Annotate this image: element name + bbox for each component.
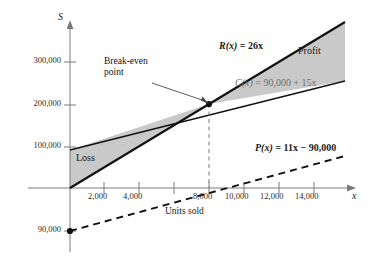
- y-axis-label: S: [58, 11, 63, 22]
- break-even-leader-line: [152, 83, 205, 101]
- loss-region-label: Loss: [76, 152, 95, 163]
- cost-function-line: [70, 81, 345, 150]
- revenue-equation-fn: R(x): [219, 40, 237, 51]
- x-tick-label-4000: 4,000: [123, 192, 142, 202]
- y-tick-label-100000: 100,000: [6, 141, 61, 151]
- y-tick-label-300000: 300,000: [6, 56, 61, 66]
- cost-equation-rest: = 90,000 + 15x: [255, 77, 316, 88]
- revenue-equation: R(x) = 26x: [219, 40, 263, 51]
- profit-equation-fn: P(x): [255, 142, 273, 153]
- x-tick-label-12000: 12,000: [260, 192, 283, 202]
- profit-intercept-marker: [67, 228, 73, 234]
- break-even-callout-line2: point: [104, 67, 148, 78]
- y-tick-label-90000: 90,000: [6, 225, 61, 235]
- cost-equation-fn: C(x): [235, 77, 253, 88]
- x-tick-label-2000: 2,000: [88, 192, 107, 202]
- revenue-equation-rest: = 26x: [240, 40, 263, 51]
- break-even-callout: Break-even point: [104, 56, 148, 77]
- cost-equation: C(x) = 90,000 + 15x: [235, 77, 317, 88]
- x-tick-label-14000: 14,000: [295, 192, 318, 202]
- break-even-leader-arrow: [201, 96, 209, 104]
- break-even-callout-line1: Break-even: [104, 56, 148, 67]
- y-tick-label-200000: 200,000: [6, 99, 61, 109]
- profit-region-label: Profit: [298, 45, 321, 56]
- break-even-analysis-chart: S x Units sold 300,000 200,000 100,000 9…: [0, 0, 370, 273]
- profit-equation: P(x) = 11x − 90,000: [255, 142, 336, 153]
- x-axis-caption: Units sold: [165, 206, 204, 217]
- y-axis-arrow: [67, 20, 74, 29]
- x-tick-label-10000: 10,000: [225, 192, 248, 202]
- profit-equation-rest: = 11x − 90,000: [275, 142, 336, 153]
- x-axis-label: x: [352, 190, 356, 201]
- x-tick-label-8000: 8,000: [193, 192, 212, 202]
